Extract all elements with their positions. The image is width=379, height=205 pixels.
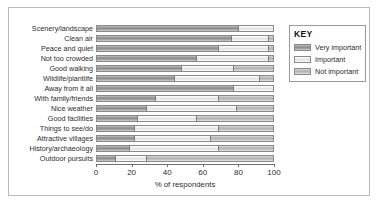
bar-segment — [129, 146, 219, 151]
bar-segment — [233, 86, 273, 91]
stacked-bar — [96, 115, 274, 122]
bar-segment — [218, 96, 273, 101]
bar-segment — [97, 36, 231, 41]
bar-segment — [134, 126, 218, 131]
bar-row — [96, 84, 274, 94]
bar-row — [96, 104, 274, 114]
stacked-bar — [96, 145, 274, 152]
stacked-bar — [96, 75, 274, 82]
bar-row — [96, 74, 274, 84]
bar-segment — [115, 156, 147, 161]
legend-items: Very importantImportantNot important — [294, 41, 361, 77]
x-axis-title: % of respondents — [96, 180, 274, 189]
bar-row — [96, 24, 274, 34]
bar-segment — [146, 156, 273, 161]
category-label: Scenery/landscape — [14, 24, 93, 34]
legend-label: Important — [315, 55, 345, 64]
legend-swatch — [294, 56, 311, 63]
x-axis-line — [96, 164, 274, 165]
bar-row — [96, 54, 274, 64]
legend-box: KEY Very importantImportantNot important — [289, 25, 366, 82]
bar-segment — [97, 116, 137, 121]
category-label: Clean air — [14, 34, 93, 44]
bar-segment — [97, 66, 181, 71]
bar-row — [96, 94, 274, 104]
bar-segment — [97, 96, 155, 101]
legend-title: KEY — [294, 29, 361, 39]
x-tick-mark — [167, 164, 168, 167]
stacked-bar — [96, 45, 274, 52]
legend-swatch — [294, 44, 311, 51]
category-label: Good facilities — [14, 114, 93, 124]
x-tick-label: 0 — [94, 168, 98, 177]
bar-row — [96, 114, 274, 124]
bar-segment — [155, 96, 218, 101]
bar-segment — [97, 86, 233, 91]
bar-segment — [196, 56, 268, 61]
category-label: History/archaeology — [14, 144, 93, 154]
legend-swatch — [294, 68, 311, 75]
bar-segment — [181, 66, 232, 71]
bar-segment — [97, 126, 134, 131]
stacked-bar — [96, 105, 274, 112]
stacked-bar — [96, 85, 274, 92]
legend-item[interactable]: Very important — [294, 41, 361, 53]
bar-row — [96, 34, 274, 44]
stacked-bar — [96, 35, 274, 42]
bar-segment — [238, 26, 273, 31]
category-label: Outdoor pursuits — [14, 154, 93, 164]
bar-segment — [196, 116, 273, 121]
bar-segment — [259, 76, 273, 81]
stacked-bar — [96, 155, 274, 162]
category-label: Peace and quiet — [14, 44, 93, 54]
bar-row — [96, 124, 274, 134]
bar-segment — [236, 106, 273, 111]
x-tick-label: 60 — [198, 168, 207, 177]
x-tick-mark — [203, 164, 204, 167]
x-tick-label: 40 — [163, 168, 172, 177]
category-axis-labels: Scenery/landscapeClean airPeace and quie… — [14, 24, 93, 164]
stacked-bar — [96, 25, 274, 32]
plot-area — [96, 24, 274, 164]
bar-segment — [134, 136, 210, 141]
legend-item[interactable]: Important — [294, 53, 361, 65]
category-label: Things to see/do — [14, 124, 93, 134]
stacked-bar — [96, 135, 274, 142]
category-label: Nice weather — [14, 104, 93, 114]
stacked-bar — [96, 125, 274, 132]
stacked-bar — [96, 55, 274, 62]
bar-segment — [268, 56, 273, 61]
x-tick-mark — [274, 164, 275, 167]
x-tick-mark — [96, 164, 97, 167]
category-label: Wildlife/plantlife — [14, 74, 93, 84]
x-tick-mark — [132, 164, 133, 167]
bar-segment — [137, 116, 195, 121]
legend-item[interactable]: Not important — [294, 65, 361, 77]
x-tick-mark — [238, 164, 239, 167]
bar-row — [96, 144, 274, 154]
bar-row — [96, 154, 274, 164]
bar-segment — [97, 146, 129, 151]
bar-segment — [231, 36, 268, 41]
x-tick-label: 80 — [234, 168, 243, 177]
bar-segment — [233, 66, 273, 71]
legend-label: Very important — [315, 43, 361, 52]
bar-segment — [146, 106, 236, 111]
bar-segment — [97, 26, 238, 31]
bar-row — [96, 44, 274, 54]
bar-segment — [97, 136, 134, 141]
bar-segment — [97, 106, 146, 111]
chart-figure: Scenery/landscapeClean airPeace and quie… — [0, 0, 379, 205]
bar-row — [96, 134, 274, 144]
category-label: Away from it all — [14, 84, 93, 94]
stacked-bar — [96, 95, 274, 102]
x-tick-label: 100 — [267, 168, 280, 177]
x-tick-label: 20 — [127, 168, 136, 177]
bar-segment — [218, 126, 273, 131]
category-label: With family/friends — [14, 94, 93, 104]
bar-segment — [218, 46, 267, 51]
bar-segment — [210, 136, 273, 141]
bar-segment — [97, 46, 218, 51]
bar-segment — [268, 46, 273, 51]
bar-segment — [97, 76, 174, 81]
